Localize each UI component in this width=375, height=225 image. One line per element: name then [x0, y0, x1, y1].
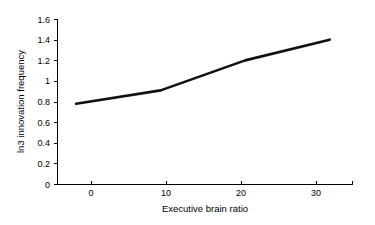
y-tick-label: 0.2 — [37, 159, 50, 169]
x-tick-label: 0 — [88, 188, 93, 198]
y-tick-label: 0 — [45, 180, 50, 190]
chart-figure: 1.6 1.4 1.2 1 0.8 0.6 0.4 0.2 0 0 10 20 … — [0, 0, 375, 225]
x-axis-title: Executive brain ratio — [162, 203, 248, 214]
x-tick-label: 30 — [311, 188, 321, 198]
x-tick-label: 10 — [161, 188, 171, 198]
y-tick-label: 0.8 — [37, 97, 50, 107]
y-tick-label: 0.4 — [37, 138, 50, 148]
y-tick-label: 0.6 — [37, 118, 50, 128]
x-tick-label: 20 — [236, 188, 246, 198]
y-tick-label: 1 — [45, 76, 50, 86]
y-tick-label: 1.6 — [37, 15, 50, 25]
line-chart: 1.6 1.4 1.2 1 0.8 0.6 0.4 0.2 0 0 10 20 … — [0, 0, 375, 225]
y-tick-label: 1.4 — [37, 35, 50, 45]
y-tick-label: 1.2 — [37, 56, 50, 66]
y-axis-title: ln3 innovation frequency — [15, 50, 26, 153]
